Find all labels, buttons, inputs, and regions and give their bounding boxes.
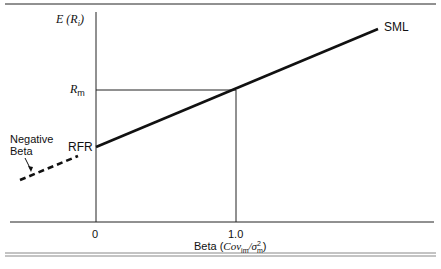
x-tick-1: 1.0	[228, 228, 243, 240]
negative-beta-dashed-line	[20, 156, 78, 180]
sml-label: SML	[384, 20, 409, 34]
x-axis-label: Beta (Covim/σ2m)	[194, 240, 266, 254]
negative-beta-label: Negative Beta	[10, 133, 53, 157]
x-tick-0: 0	[92, 228, 98, 240]
rfr-label: RFR	[68, 140, 93, 154]
y-axis-label-close: )	[80, 12, 84, 26]
sml-line	[96, 29, 378, 147]
arrow-head-icon	[28, 166, 33, 172]
x-axis-label-cov: Cov	[223, 240, 241, 252]
y-axis-label-text: E (R	[56, 12, 78, 26]
chart-canvas	[0, 0, 441, 269]
rm-label: Rm	[70, 82, 85, 98]
negative-beta-line2: Beta	[10, 145, 53, 157]
x-axis-label-sigma: /σ	[248, 240, 256, 252]
x-axis-label-prefix: Beta (	[194, 240, 223, 252]
negative-beta-line1: Negative	[10, 133, 53, 145]
rm-label-sub: m	[77, 88, 85, 98]
y-axis-label: E (Ri)	[56, 12, 84, 28]
x-axis-label-close: )	[263, 240, 267, 252]
